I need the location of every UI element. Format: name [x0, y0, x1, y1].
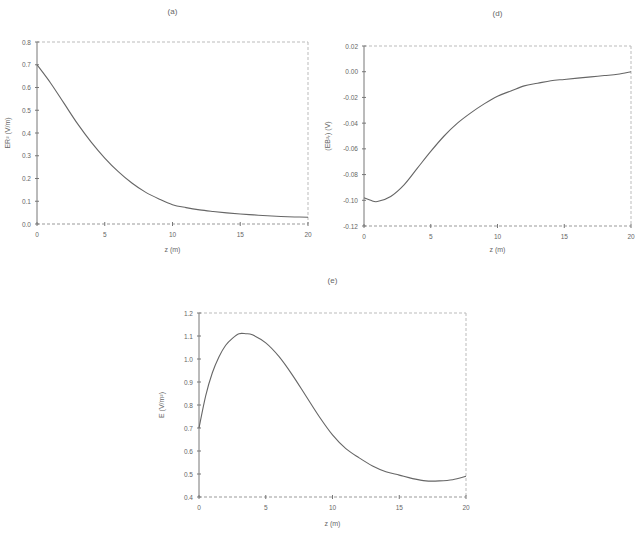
chart-title: (a): [168, 7, 178, 16]
y-tick-label: -0.08: [343, 171, 358, 178]
y-tick-label: 0.0: [22, 221, 31, 228]
x-axis-label: z (m): [490, 246, 506, 254]
x-tick-label: 5: [103, 231, 107, 238]
y-tick-label: 1.0: [184, 356, 193, 363]
x-tick-label: 0: [362, 233, 366, 240]
y-tick-label: 0.00: [345, 68, 358, 75]
chart-e: (e)0.40.50.60.70.80.91.01.11.205101520z …: [150, 270, 490, 534]
y-tick-label: 0.6: [22, 84, 31, 91]
chart-panel-a: (a)0.00.10.20.30.40.50.60.70.805101520z …: [0, 0, 320, 262]
y-axis-label: E (V/m²): [158, 392, 166, 418]
y-tick-label: 0.7: [184, 425, 193, 432]
y-tick-label: 0.2: [22, 175, 31, 182]
x-axis-label: z (m): [165, 246, 181, 254]
y-tick-label: 0.1: [22, 198, 31, 205]
y-tick-label: 0.9: [184, 379, 193, 386]
x-tick-label: 20: [304, 231, 312, 238]
y-axis-label: (EB²ᵣ) (V): [324, 121, 332, 150]
chart-title: (d): [493, 9, 503, 18]
x-tick-label: 15: [561, 233, 569, 240]
x-tick-label: 0: [35, 231, 39, 238]
y-tick-label: 0.4: [184, 494, 193, 501]
x-tick-label: 10: [329, 504, 337, 511]
x-tick-label: 10: [169, 231, 177, 238]
x-tick-label: 5: [264, 504, 268, 511]
y-tick-label: 1.2: [184, 310, 193, 317]
y-tick-label: 1.1: [184, 333, 193, 340]
y-tick-label: -0.10: [343, 197, 358, 204]
chart-title: (e): [328, 276, 338, 285]
y-tick-label: -0.12: [343, 223, 358, 230]
y-tick-label: -0.04: [343, 120, 358, 127]
x-tick-label: 5: [429, 233, 433, 240]
y-tick-label: -0.06: [343, 145, 358, 152]
x-tick-label: 15: [396, 504, 404, 511]
x-tick-label: 20: [627, 233, 635, 240]
chart-panel-e: (e)0.40.50.60.70.80.91.01.11.205101520z …: [150, 270, 490, 534]
y-axis-label: ER² (V/m): [4, 117, 12, 148]
y-tick-label: 0.4: [22, 130, 31, 137]
chart-panel-d: (d)-0.12-0.10-0.08-0.06-0.04-0.020.000.0…: [320, 0, 636, 262]
y-tick-label: 0.5: [22, 107, 31, 114]
y-tick-label: 0.6: [184, 448, 193, 455]
data-line: [364, 72, 631, 202]
x-axis-label: z (m): [325, 520, 341, 528]
y-tick-label: 0.8: [184, 402, 193, 409]
y-tick-label: 0.8: [22, 39, 31, 46]
x-tick-label: 15: [237, 231, 245, 238]
x-tick-label: 10: [494, 233, 502, 240]
chart-a: (a)0.00.10.20.30.40.50.60.70.805101520z …: [0, 0, 320, 262]
data-line: [37, 65, 308, 217]
y-tick-label: -0.02: [343, 94, 358, 101]
data-line: [199, 333, 466, 481]
chart-d: (d)-0.12-0.10-0.08-0.06-0.04-0.020.000.0…: [320, 0, 636, 262]
y-tick-label: 0.5: [184, 471, 193, 478]
y-tick-label: 0.3: [22, 152, 31, 159]
x-tick-label: 20: [462, 504, 470, 511]
y-tick-label: 0.7: [22, 61, 31, 68]
x-tick-label: 0: [197, 504, 201, 511]
y-tick-label: 0.02: [345, 43, 358, 50]
